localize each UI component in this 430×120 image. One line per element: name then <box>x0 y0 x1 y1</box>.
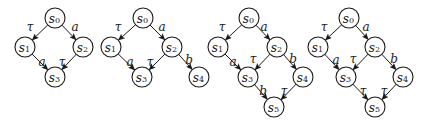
edge-s2-s4: b <box>179 53 193 70</box>
state-node-s0: s0 <box>339 8 359 28</box>
edge-s0-s1: τ <box>27 20 48 40</box>
edge-label: τ <box>350 52 357 66</box>
edge-s2-s3: τ <box>59 54 76 69</box>
edge-s4-s5: τ <box>281 84 296 100</box>
edge-label: τ <box>219 20 226 34</box>
edge-s2-s3: τ <box>250 52 270 70</box>
transition-systems-diagram: τaaτs0s1s2s3τaaτbs0s1s2s3s4τaaτbbτs0s1s2… <box>0 0 430 120</box>
transition-arrow <box>33 25 48 40</box>
state-node-s5: s5 <box>365 97 385 117</box>
state-node-s2: s2 <box>365 37 385 57</box>
edge-s2-s4: b <box>382 52 398 70</box>
edge-label: a <box>362 20 369 34</box>
state-node-s3: s3 <box>238 67 258 87</box>
state-node-s2: s2 <box>162 37 182 57</box>
edge-label: a <box>158 20 165 34</box>
state-node-s4: s4 <box>293 67 313 87</box>
edge-label: τ <box>147 55 154 69</box>
state-node-s0: s0 <box>45 8 65 28</box>
state-node-s1: s1 <box>208 37 228 57</box>
edge-label: a <box>126 55 133 69</box>
transition-arrow <box>255 54 270 69</box>
state-node-s1: s1 <box>308 37 328 57</box>
edge-label: a <box>332 53 339 67</box>
state-node-s1: s1 <box>15 37 35 57</box>
edge-label: τ <box>115 20 122 34</box>
transition-arrow <box>226 25 242 40</box>
state-node-s4: s4 <box>393 67 413 87</box>
edge-s2-s3: τ <box>350 52 368 70</box>
edge-s0-s1: τ <box>321 20 342 40</box>
edge-label: τ <box>281 84 288 98</box>
edge-label: b <box>185 53 193 67</box>
edge-s0-s1: τ <box>219 20 242 40</box>
transition-graph-4: τaaτbττs0s1s2s3s4s5 <box>308 8 413 117</box>
state-node-s1: s1 <box>101 37 121 57</box>
edge-s2-s3: τ <box>147 54 165 70</box>
transition-graph-3: τaaτbbτs0s1s2s3s4s5 <box>208 8 313 117</box>
state-node-s0: s0 <box>239 8 259 28</box>
edge-label: τ <box>250 52 257 66</box>
edge-s3-s5: b <box>255 84 268 100</box>
edge-label: τ <box>381 84 388 98</box>
state-node-s2: s2 <box>267 37 287 57</box>
edge-label: τ <box>360 84 367 98</box>
edge-s1-s3: a <box>118 54 134 70</box>
state-node-s5: s5 <box>264 97 284 117</box>
edge-s1-s3: a <box>325 53 340 70</box>
state-node-s4: s4 <box>189 67 209 87</box>
transition-arrow <box>326 25 342 40</box>
state-node-s3: s3 <box>45 67 65 87</box>
state-node-s0: s0 <box>133 8 153 28</box>
edge-s1-s3: a <box>32 54 48 70</box>
edge-label: a <box>38 55 45 69</box>
transition-graph-1: τaaτs0s1s2s3 <box>15 8 93 87</box>
edge-label: τ <box>27 20 34 34</box>
edge-label: τ <box>59 55 66 69</box>
graphs-layer: τaaτs0s1s2s3τaaτbs0s1s2s3s4τaaτbbτs0s1s2… <box>15 8 413 117</box>
edge-label: τ <box>321 20 328 34</box>
edge-s2-s4: b <box>284 52 297 70</box>
edge-s4-s5: τ <box>381 84 396 100</box>
transition-graph-2: τaaτbs0s1s2s3s4 <box>101 8 209 87</box>
edge-label: a <box>260 20 267 34</box>
edge-s0-s1: τ <box>115 20 136 40</box>
state-node-s2: s2 <box>73 37 93 57</box>
edge-label: a <box>71 20 78 34</box>
state-node-s3: s3 <box>132 67 152 87</box>
edge-label: b <box>390 52 398 66</box>
edge-s1-s3: a <box>225 54 241 70</box>
state-node-s3: s3 <box>336 67 356 87</box>
edge-s3-s5: τ <box>353 84 368 100</box>
edge-label: a <box>229 55 236 69</box>
edge-label: b <box>259 84 267 98</box>
edge-label: b <box>289 52 297 66</box>
